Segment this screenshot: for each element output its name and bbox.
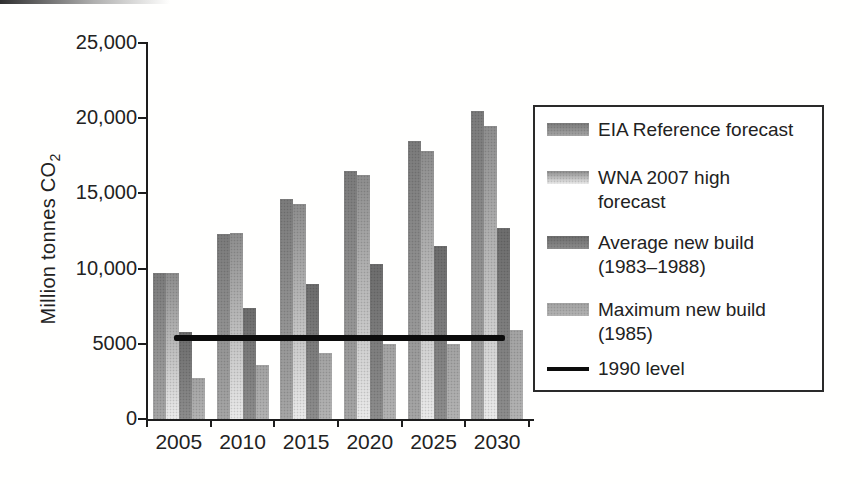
reference-line-1990-level — [174, 335, 505, 341]
figure: Million tonnes CO2 0500010,00015,00020,0… — [0, 0, 862, 484]
legend-item-average-new-build: Average new build (1983–1988) — [547, 231, 810, 279]
bar-series2-2005 — [166, 273, 179, 419]
y-axis-title-subscript: 2 — [47, 153, 63, 161]
bar-series4-2005 — [192, 378, 205, 419]
y-tick-label: 5000 — [57, 332, 137, 355]
y-tick — [138, 42, 147, 44]
bar-series4-2020 — [383, 344, 396, 419]
bar-series4-2030 — [510, 330, 523, 419]
bar-series3-2010 — [243, 308, 256, 419]
bar-series1-2015 — [280, 199, 293, 419]
y-axis-title: Million tonnes CO2 — [37, 153, 63, 324]
y-axis-line — [146, 42, 148, 421]
y-tick-label: 15,000 — [57, 181, 137, 204]
x-tick — [528, 420, 530, 427]
legend-label-eia-reference: EIA Reference forecast — [598, 118, 793, 142]
scan-artifact — [0, 0, 170, 4]
x-axis-line — [146, 419, 534, 421]
legend-item-maximum-new-build: Maximum new build (1985) — [547, 298, 810, 346]
bar-series1-2020 — [344, 171, 357, 419]
y-tick — [138, 117, 147, 119]
y-tick — [138, 192, 147, 194]
legend-item-eia-reference: EIA Reference forecast — [547, 118, 810, 142]
x-tick — [210, 420, 212, 427]
bar-series1-2010 — [217, 234, 230, 419]
wna-high-swatch — [547, 171, 589, 184]
legend-label-wna-high: WNA 2007 high forecast — [598, 166, 730, 214]
y-tick-label: 10,000 — [57, 257, 137, 280]
legend-item-1990-level: 1990 level — [547, 357, 810, 381]
y-tick — [138, 268, 147, 270]
legend-label-maximum-new-build: Maximum new build (1985) — [598, 298, 766, 346]
y-tick — [138, 343, 147, 345]
bar-series1-2030 — [471, 111, 484, 419]
bar-series1-2025 — [408, 141, 421, 419]
x-tick — [146, 420, 148, 427]
bar-series3-2025 — [434, 246, 447, 419]
bar-series3-2030 — [497, 228, 510, 419]
x-tick — [401, 420, 403, 427]
1990-level-line-swatch — [547, 367, 589, 371]
bar-series4-2010 — [256, 365, 269, 419]
y-tick-label: 25,000 — [57, 31, 137, 54]
maximum-new-build-swatch — [547, 303, 589, 316]
x-tick — [273, 420, 275, 427]
legend-item-wna-high: WNA 2007 high forecast — [547, 166, 810, 214]
average-new-build-swatch — [547, 236, 589, 249]
x-tick-label: 2030 — [457, 430, 537, 454]
y-tick-label: 20,000 — [57, 106, 137, 129]
bar-series3-2005 — [179, 332, 192, 419]
x-tick — [337, 420, 339, 427]
x-tick — [464, 420, 466, 427]
bar-series3-2015 — [306, 284, 319, 419]
bar-series2-2010 — [230, 233, 243, 420]
legend-label-1990-level: 1990 level — [598, 357, 685, 381]
bar-series2-2030 — [484, 126, 497, 419]
legend: EIA Reference forecast WNA 2007 high for… — [533, 105, 824, 392]
y-axis-title-text: Million tonnes CO — [37, 162, 59, 325]
eia-reference-swatch — [547, 123, 589, 136]
bar-series4-2015 — [319, 353, 332, 419]
y-tick-label: 0 — [57, 407, 137, 430]
bar-series2-2025 — [421, 151, 434, 419]
bar-series4-2025 — [447, 344, 460, 419]
legend-label-average-new-build: Average new build (1983–1988) — [598, 231, 754, 279]
bar-series2-2020 — [357, 175, 370, 419]
bar-series1-2005 — [153, 273, 166, 419]
bar-series3-2020 — [370, 264, 383, 419]
bar-series2-2015 — [293, 204, 306, 419]
